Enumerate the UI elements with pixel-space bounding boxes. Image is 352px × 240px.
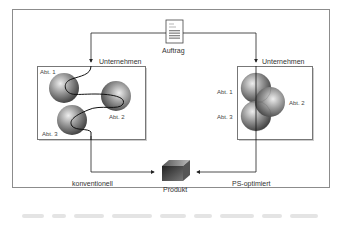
right-dept-label-3: Abt. 3 [217,114,233,120]
ps-optimized-label: PS-optimiert [232,180,271,187]
conventional-to-product-arrow [91,136,154,172]
left-dept-label-3: Abt. 3 [42,131,58,137]
ps-optimized-to-product-arrow [197,140,256,172]
left-dept-label-2: Abt. 2 [109,114,125,120]
right-dept-label-1: Abt. 1 [217,89,233,95]
right-dept-label-2: Abt. 2 [289,100,305,106]
caption-placeholder [22,206,332,212]
order-label: Auftrag [162,47,185,54]
product-label: Produkt [163,186,187,193]
left-dept-label-1: Abt. 1 [40,69,56,75]
right-company-label: Unternehmen [262,58,304,65]
left-company-label: Unternehmen [99,58,141,65]
document-icon [166,20,183,43]
product-box-icon [162,160,190,181]
sphere-abt-2 [255,87,285,117]
order-line-right [183,33,256,62]
sphere-abt-1 [49,73,79,103]
conventional-label: konventionell [72,180,113,187]
